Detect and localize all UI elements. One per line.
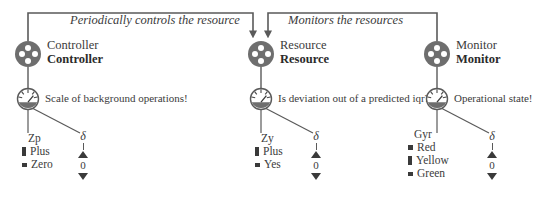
level-swatch-icon [22,163,27,167]
level-swatch-icon [255,163,260,167]
agent-type-monitor: Monitor [456,39,500,53]
level-swatch-icon [408,156,412,165]
discrete-option-label: Green [417,168,445,180]
discrete-var-name-resource: Zy [255,132,283,144]
agent-type-controller: Controller [47,39,103,53]
pulley-hole-bottom [258,58,264,64]
continuous-var-resource[interactable]: δ 0 [303,130,329,180]
edge-caption-controller-to-resource: Periodically controls the resource [70,13,240,28]
agent-labels-monitor: Monitor Monitor [456,39,500,66]
agent-node-controller[interactable] [15,41,41,67]
discrete-var-monitor[interactable]: Gyr Red Yellow Green [408,128,449,180]
discrete-option-label: Yes [264,159,281,171]
pulley-hole-left [428,51,434,57]
agent-node-monitor[interactable] [424,41,450,67]
pulley-hole-left [19,51,25,57]
agent-instance-monitor: Monitor [456,53,500,67]
delta-symbol-monitor: δ [479,130,505,142]
triangle-up-icon[interactable] [487,151,497,158]
delta-symbol-controller: δ [70,130,96,142]
discrete-option-row[interactable]: Green [408,167,449,180]
discrete-option-label: Red [417,142,436,154]
gauge-question-controller: Scale of background operations! [45,92,188,104]
agent-type-resource: Resource [280,39,329,53]
discrete-option-label: Yellow [416,155,449,167]
delta-value-controller: 0 [70,159,96,172]
triangle-down-icon[interactable] [487,173,497,180]
edge-caption-monitor-to-resource: Monitors the resources [288,13,403,28]
triangle-up-icon[interactable] [78,151,88,158]
continuous-var-monitor[interactable]: δ 0 [479,130,505,180]
gauge-question-monitor: Operational state! [454,92,533,104]
level-swatch-icon [255,147,259,156]
delta-stem [492,143,493,150]
agent-instance-resource: Resource [280,53,329,67]
pulley-hole-top [434,45,440,51]
discrete-var-controller[interactable]: Zp Plus Zero [22,132,53,171]
delta-symbol-resource: δ [303,130,329,142]
gauge-question-resource: Is deviation out of a predicted iqr? [278,92,430,104]
delta-value-resource: 0 [303,159,329,172]
discrete-option-row[interactable]: Plus [22,145,53,158]
triangle-up-icon[interactable] [311,151,321,158]
pulley-hole-right [265,51,271,57]
agent-labels-controller: Controller Controller [47,39,103,66]
pulley-hole-top [258,45,264,51]
level-swatch-icon [408,172,413,176]
continuous-var-controller[interactable]: δ 0 [70,130,96,180]
delta-value-monitor: 0 [479,159,505,172]
discrete-option-row[interactable]: Plus [255,145,283,158]
discrete-option-label: Plus [263,146,283,158]
discrete-var-name-monitor: Gyr [408,128,449,140]
agent-labels-resource: Resource Resource [280,39,329,66]
diagram-canvas: Periodically controls the resource Monit… [0,0,537,197]
agent-instance-controller: Controller [47,53,103,67]
agent-node-resource[interactable] [248,41,274,67]
pulley-hole-left [252,51,258,57]
triangle-down-icon[interactable] [78,173,88,180]
discrete-option-row[interactable]: Yes [255,158,283,171]
level-swatch-icon [22,147,26,156]
gauge-icon-controller[interactable] [16,87,40,111]
discrete-option-row[interactable]: Red [408,141,449,154]
gauge-icon-monitor[interactable] [425,87,449,111]
gauge-icon-resource[interactable] [249,87,273,111]
discrete-var-name-controller: Zp [22,132,53,144]
triangle-down-icon[interactable] [311,173,321,180]
delta-stem [83,143,84,150]
pulley-hole-bottom [25,58,31,64]
pulley-hole-right [32,51,38,57]
delta-stem [316,143,317,150]
discrete-option-label: Plus [30,146,50,158]
level-swatch-icon [408,145,413,150]
discrete-option-row[interactable]: Yellow [408,154,449,167]
pulley-hole-right [441,51,447,57]
discrete-option-row[interactable]: Zero [22,158,53,171]
pulley-hole-top [25,45,31,51]
pulley-hole-bottom [434,58,440,64]
discrete-var-resource[interactable]: Zy Plus Yes [255,132,283,171]
discrete-option-label: Zero [31,159,53,171]
